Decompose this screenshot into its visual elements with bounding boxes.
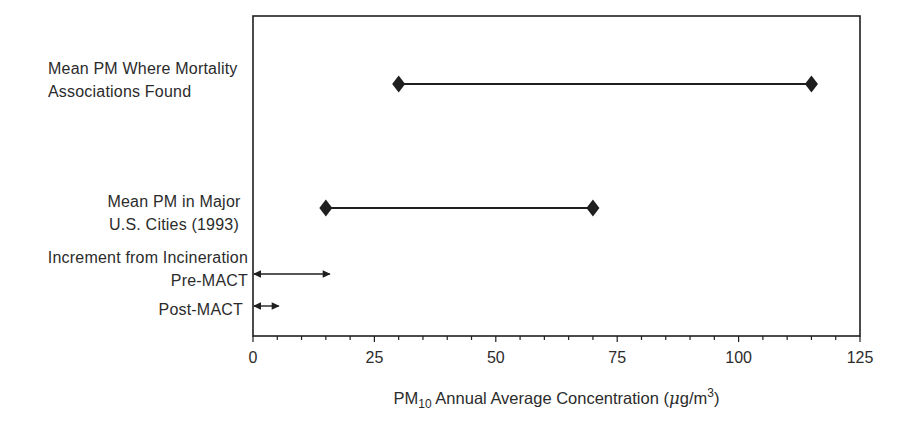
diamond-marker (319, 200, 332, 217)
x-axis-label-subscript: 10 (418, 397, 431, 411)
x-axis-label-superscript: 3 (707, 386, 714, 400)
x-tick-label: 25 (365, 349, 383, 367)
x-axis-label: PM10 Annual Average Concentration (μg/m3… (253, 386, 860, 411)
x-axis-label-text: ) (714, 389, 720, 407)
chart-figure: Mean PM Where Mortality Associations Fou… (0, 0, 908, 424)
x-tick-label: 100 (725, 349, 752, 367)
x-axis-label-text: g/m (680, 389, 708, 407)
x-tick-label: 50 (487, 349, 505, 367)
diamond-marker (586, 200, 599, 217)
plot-border (253, 16, 860, 336)
arrowhead-right (323, 270, 331, 278)
mu-symbol: μ (669, 389, 680, 408)
arrowhead-right (272, 302, 280, 310)
plot-area (0, 0, 908, 424)
x-axis-label-text: PM (394, 389, 419, 407)
x-tick-label: 125 (847, 349, 874, 367)
x-axis-label-text: Annual Average Concentration ( (432, 389, 669, 407)
diamond-marker (805, 76, 818, 93)
x-tick-label: 0 (249, 349, 258, 367)
x-tick-label: 75 (608, 349, 626, 367)
arrowhead-left (253, 302, 261, 310)
arrowhead-left (253, 270, 261, 278)
diamond-marker (392, 76, 405, 93)
